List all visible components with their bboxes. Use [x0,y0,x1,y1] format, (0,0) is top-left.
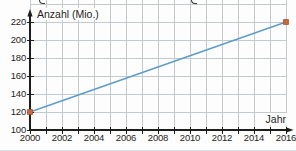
x-tick-label: 2002 [46,133,78,143]
x-tick-label: 2000 [14,133,46,143]
x-axis-label: Jahr [264,113,288,125]
bottom-edge-line [0,150,296,151]
x-tick-label: 2008 [142,133,174,143]
y-tick-label: 220 [0,17,26,27]
data-point-marker [284,20,289,25]
y-tick-label: 180 [0,53,26,63]
x-tick-label: 2012 [206,133,238,143]
y-tick-label: 140 [0,89,26,99]
x-tick-label: 2010 [174,133,206,143]
cropped-text-fragment [39,0,45,4]
chart-canvas [0,0,296,151]
y-axis-arrow [27,9,32,17]
y-axis-label: Anzahl (Mio.) [36,8,101,20]
y-tick-label: 200 [0,35,26,45]
x-tick-label: 2014 [238,133,270,143]
x-tick-label: 2016 [270,133,296,143]
x-tick-label: 2006 [110,133,142,143]
axes [27,9,294,134]
line-chart-figure: Anzahl (Mio.) Jahr 220200180160140120100… [0,0,296,151]
x-tick-label: 2004 [78,133,110,143]
data-point-marker [28,110,33,115]
y-tick-label: 120 [0,107,26,117]
y-tick-label: 160 [0,71,26,81]
cropped-text-fragment [191,0,197,4]
